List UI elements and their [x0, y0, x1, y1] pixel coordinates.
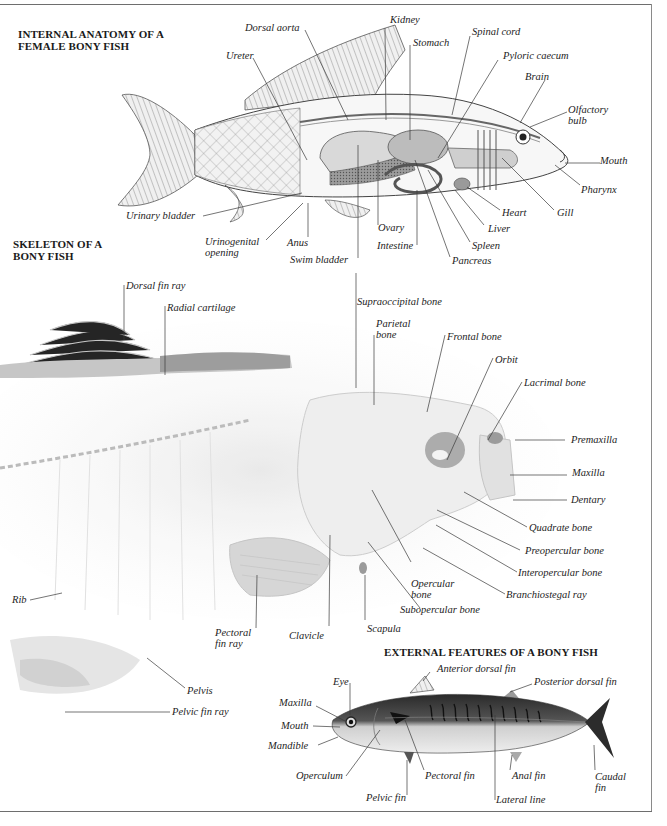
label-line: Opercular: [411, 578, 454, 589]
label-anterior-dorsal-fin: Anterior dorsal fin: [437, 663, 516, 674]
label-anus: Anus: [287, 237, 308, 248]
label-scapula: Scapula: [367, 623, 401, 634]
label-olfactory-bulb: Olfactory bulb: [568, 104, 608, 126]
label-rib: Rib: [12, 594, 27, 605]
label-line: bone: [411, 589, 454, 600]
label-quadrate-bone: Quadrate bone: [529, 522, 592, 533]
label-stomach: Stomach: [413, 37, 449, 48]
label-line: opening: [205, 247, 259, 258]
label-operculum: Operculum: [296, 770, 343, 781]
label-opercular-bone: Opercular bone: [411, 578, 454, 600]
heading-internal-anatomy: INTERNAL ANATOMY OF A FEMALE BONY FISH: [18, 28, 164, 52]
label-urinary-bladder: Urinary bladder: [126, 210, 195, 221]
label-subopercular-bone: Subopercular bone: [400, 604, 480, 615]
label-line: Urinogenital: [205, 236, 259, 247]
skeleton-fish: [0, 320, 560, 694]
label-line: Parietal: [376, 318, 410, 329]
label-line: Caudal: [595, 771, 626, 782]
label-posterior-dorsal-fin: Posterior dorsal fin: [534, 676, 617, 687]
heading-line: SKELETON OF A: [13, 238, 102, 250]
label-pectoral-fin-ray: Pectoral fin ray: [215, 627, 251, 649]
label-pelvic-fin-ray: Pelvic fin ray: [172, 706, 229, 717]
label-parietal-bone: Parietal bone: [376, 318, 410, 340]
label-heart: Heart: [502, 207, 527, 218]
label-pyloric-caecum: Pyloric caecum: [503, 50, 569, 61]
label-lateral-line: Lateral line: [496, 794, 545, 805]
label-branchiostegal-ray: Branchiostegal ray: [506, 589, 587, 600]
heading-line: INTERNAL ANATOMY OF A: [18, 28, 164, 40]
heading-line: BONY FISH: [13, 250, 102, 262]
label-line: bulb: [568, 115, 608, 126]
label-pancreas: Pancreas: [452, 255, 491, 266]
label-maxilla-external: Maxilla: [279, 697, 312, 708]
label-frontal-bone: Frontal bone: [447, 331, 502, 342]
label-line: bone: [376, 329, 410, 340]
label-kidney: Kidney: [390, 14, 420, 25]
label-maxilla-skeleton: Maxilla: [572, 467, 605, 478]
label-mouth-external: Mouth: [281, 720, 308, 731]
label-pelvis: Pelvis: [187, 685, 213, 696]
label-interopercular-bone: Interopercular bone: [518, 567, 602, 578]
label-spinal-cord: Spinal cord: [472, 26, 520, 37]
label-spleen: Spleen: [472, 240, 500, 251]
label-eye: Eye: [333, 676, 349, 687]
label-dentary: Dentary: [571, 494, 605, 505]
label-caudal-fin: Caudal fin: [595, 771, 626, 793]
label-swim-bladder: Swim bladder: [290, 254, 348, 265]
heading-skeleton: SKELETON OF A BONY FISH: [13, 238, 102, 262]
illustrations: [0, 0, 667, 826]
label-ovary: Ovary: [378, 222, 404, 233]
label-line: Pectoral: [215, 627, 251, 638]
label-brain: Brain: [525, 71, 549, 82]
label-urinogenital-opening: Urinogenital opening: [205, 236, 259, 258]
label-dorsal-fin-ray: Dorsal fin ray: [126, 280, 186, 291]
heading-external-features: EXTERNAL FEATURES OF A BONY FISH: [384, 646, 598, 658]
label-liver: Liver: [488, 223, 510, 234]
label-pharynx: Pharynx: [581, 184, 617, 195]
label-line: fin: [595, 782, 626, 793]
label-gill: Gill: [557, 207, 573, 218]
label-mouth-internal: Mouth: [600, 155, 627, 166]
label-pectoral-fin: Pectoral fin: [425, 770, 475, 781]
label-lacrimal-bone: Lacrimal bone: [524, 377, 586, 388]
mackerel-fish: [332, 676, 614, 764]
label-mandible: Mandible: [268, 740, 308, 751]
label-clavicle: Clavicle: [289, 630, 324, 641]
heading-line: FEMALE BONY FISH: [18, 40, 164, 52]
label-line: Olfactory: [568, 104, 608, 115]
label-intestine: Intestine: [377, 240, 413, 251]
label-ureter: Ureter: [226, 50, 254, 61]
internal-anatomy-fish: [118, 25, 568, 222]
label-anal-fin: Anal fin: [512, 770, 546, 781]
label-supraoccipital-bone: Supraoccipital bone: [357, 296, 442, 307]
label-radial-cartilage: Radial cartilage: [167, 302, 236, 313]
label-premaxilla: Premaxilla: [571, 434, 617, 445]
label-orbit: Orbit: [495, 354, 518, 365]
label-dorsal-aorta: Dorsal aorta: [245, 22, 300, 33]
label-pelvic-fin: Pelvic fin: [366, 792, 406, 803]
anatomy-plate: INTERNAL ANATOMY OF A FEMALE BONY FISH S…: [0, 0, 667, 826]
label-line: fin ray: [215, 638, 251, 649]
label-preopercular-bone: Preopercular bone: [525, 545, 604, 556]
